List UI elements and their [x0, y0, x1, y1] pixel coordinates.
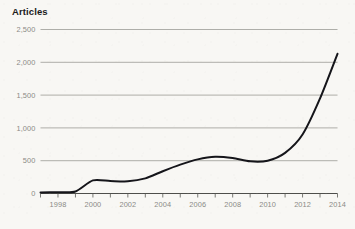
y-axis-tick-label: 1,500: [17, 91, 36, 100]
gridlines-group: [41, 30, 338, 161]
y-axis-tick-label: 0: [31, 189, 35, 198]
x-axis-tick-labels: 199820002002200420062008201020122014: [50, 200, 346, 209]
data-line-articles: [41, 54, 338, 193]
x-axis-tick-label: 2002: [119, 200, 136, 209]
y-axis-tick-label: 2,500: [17, 25, 36, 34]
x-axis-tick-label: 2008: [224, 200, 241, 209]
y-axis-tick-label: 500: [23, 156, 36, 165]
y-axis-tick-label: 1,000: [17, 124, 36, 133]
x-axis-tick-label: 1998: [50, 200, 67, 209]
x-axis: [41, 194, 338, 198]
x-axis-tick-label: 2004: [154, 200, 171, 209]
line-chart-plot: 05001,0001,5002,0002,500 199820002002200…: [0, 0, 355, 229]
x-axis-tick-label: 2014: [329, 200, 346, 209]
data-series-group: [41, 54, 338, 193]
chart-container: Articles 05001,0001,5002,0002,500 199820…: [0, 0, 355, 229]
y-axis-tick-label: 2,000: [17, 58, 36, 67]
x-axis-tick-label: 2006: [189, 200, 206, 209]
y-axis-tick-labels: 05001,0001,5002,0002,500: [17, 25, 36, 198]
x-axis-tick-label: 2000: [84, 200, 101, 209]
x-axis-tick-label: 2010: [259, 200, 276, 209]
x-axis-tick-label: 2012: [294, 200, 311, 209]
